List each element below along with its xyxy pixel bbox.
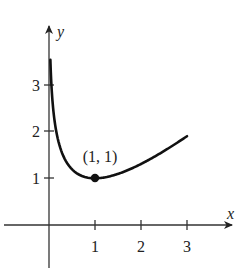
x-tick-label: 3 bbox=[183, 238, 191, 255]
y-tick-label: 3 bbox=[32, 77, 40, 94]
chart: x y 1 2 3 1 2 3 (1, 1) bbox=[0, 0, 246, 271]
point-label: (1, 1) bbox=[83, 148, 118, 166]
minimum-point-marker bbox=[91, 174, 99, 182]
x-tick-label: 2 bbox=[137, 238, 145, 255]
function-curve bbox=[50, 60, 187, 178]
x-tick-label: 1 bbox=[91, 238, 99, 255]
x-axis-label: x bbox=[226, 205, 234, 222]
y-tick-label: 2 bbox=[32, 123, 40, 140]
y-tick-label: 1 bbox=[32, 170, 40, 187]
y-axis-label: y bbox=[55, 23, 65, 41]
